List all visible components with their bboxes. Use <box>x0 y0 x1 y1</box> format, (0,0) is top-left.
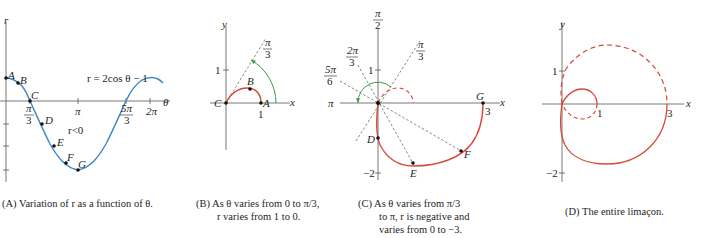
inner-loop-dashed <box>378 88 413 103</box>
point-e <box>52 144 56 148</box>
outer-upper-dashed <box>561 45 667 104</box>
label-e: E <box>56 136 64 148</box>
equation-label: r = 2cos θ − 1 <box>87 72 148 84</box>
angle-den: 3 <box>265 48 271 60</box>
5pi-over-6-num: 5π <box>325 63 337 75</box>
caption-a-text: (A) Variation of r as a function of θ. <box>2 198 153 209</box>
y-tick-1: 1 <box>552 65 558 77</box>
arc-arrow-icon <box>251 60 256 64</box>
pi-over-3-num: π <box>418 38 424 50</box>
x-tick-3: 3 <box>485 105 491 117</box>
caption-c: (C) As θ varies from π/3 to π, r is nega… <box>358 197 469 236</box>
label-f: F <box>463 148 471 160</box>
x-tick-1: 1 <box>258 108 264 120</box>
panel-a-graph: r θ A B C D E F G r = 2cos θ − 1 r<0 π 3… <box>0 14 170 182</box>
y-tick-1: 1 <box>215 64 221 76</box>
label-d: D <box>44 114 53 126</box>
x-axis-label: x <box>499 96 505 108</box>
y-tick-1: 1 <box>368 64 374 76</box>
panel-b-graph: y x 1 1 π 3 C B A <box>210 18 295 150</box>
x-tick-3: 3 <box>667 107 673 119</box>
caption-d: (D) The entire limaçon. <box>565 205 664 218</box>
tick-pi: π <box>75 105 81 117</box>
x-axis-label: x <box>685 97 691 109</box>
x-tick-1: 1 <box>597 107 603 119</box>
outer-lower-solid <box>560 104 667 164</box>
label-a: A <box>262 97 270 109</box>
limacon-inner-arc <box>226 88 261 103</box>
caption-b-line2: r varies from 1 to 0. <box>196 210 319 223</box>
arc-arrow-icon <box>356 98 360 103</box>
label-g: G <box>476 90 484 102</box>
ray-5pi-over-6 <box>340 81 463 152</box>
tick-5pi-over-3-num: 5π <box>121 102 133 114</box>
tick-5pi-over-3-den: 3 <box>124 114 130 126</box>
panel-c-graph: π 2 π 3 2π 3 5π 6 π 1 −2 3 x D E F G <box>324 7 505 180</box>
caption-b: (B) As θ varies from 0 to π/3, r varies … <box>196 197 319 223</box>
inner-loop-dashed <box>562 104 597 119</box>
label-c: C <box>31 89 39 101</box>
2pi-over-3-num: 2π <box>347 44 359 56</box>
caption-b-line1: (B) As θ varies from 0 to π/3, <box>196 198 319 209</box>
pi-label: π <box>328 97 334 109</box>
r-negative-label: r<0 <box>68 124 84 136</box>
label-g: G <box>78 158 86 170</box>
y-tick-neg2: −2 <box>363 167 375 179</box>
label-c: C <box>214 97 222 109</box>
caption-a: (A) Variation of r as a function of θ. <box>2 197 153 210</box>
label-d: D <box>366 133 375 145</box>
2pi-over-3-den: 3 <box>349 56 355 68</box>
caption-c-line3: varies from 0 to −3. <box>358 223 469 236</box>
pi-over-3-den: 3 <box>418 50 424 62</box>
angle-num: π <box>265 36 271 48</box>
theta-axis-label: θ <box>163 96 169 108</box>
tick-pi-over-3-num: π <box>26 102 32 114</box>
caption-c-line2: to π, r is negative and <box>358 210 469 223</box>
tick-2pi: 2π <box>146 105 158 117</box>
y-tick-neg2: −2 <box>546 167 558 179</box>
caption-c-line1: (C) As θ varies from π/3 <box>358 198 460 209</box>
pi-over-2-num: π <box>375 7 381 19</box>
tick-pi-over-3-den: 3 <box>26 114 32 126</box>
y-axis-label: y <box>559 18 565 30</box>
angle-arc <box>358 82 391 103</box>
caption-d-text: (D) The entire limaçon. <box>565 206 664 217</box>
label-e: E <box>409 167 417 179</box>
pi-over-3-ray <box>226 38 266 103</box>
label-b: B <box>247 75 254 87</box>
label-a: A <box>7 69 15 81</box>
x-axis-label: x <box>289 96 295 108</box>
panel-d-graph: y x 1 −2 1 3 <box>542 18 691 182</box>
label-b: B <box>20 74 27 86</box>
inner-loop-solid <box>562 89 597 104</box>
y-axis-label: y <box>221 18 227 30</box>
5pi-over-6-den: 6 <box>327 75 333 87</box>
ray-2pi-over-3 <box>358 65 414 165</box>
label-f: F <box>66 151 74 163</box>
point-d <box>40 122 44 126</box>
pi-over-2-den: 2 <box>375 19 381 31</box>
r-axis-label: r <box>4 14 9 26</box>
